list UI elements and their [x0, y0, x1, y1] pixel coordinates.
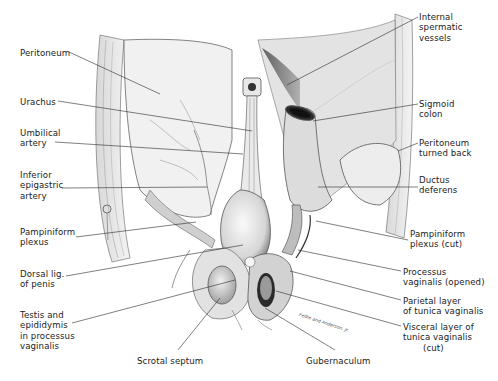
label-pampiniform-plexus-cut: Pampiniformplexus (cut): [410, 229, 465, 250]
label-visceral-layer-tunica-vaginalis: Visceral layer oftunica vaginalis(cut): [403, 322, 474, 353]
label-scrotal-septum: Scrotal septum: [137, 356, 203, 366]
label-dorsal-lig-of-penis: Dorsal lig.of penis: [20, 269, 64, 290]
spermatic-cord-right: [282, 205, 310, 258]
label-parietal-layer-tunica-vaginalis: Parietal layerof tunica vaginalis: [403, 296, 483, 317]
label-sigmoid-colon: Sigmoidcolon: [419, 99, 454, 120]
label-inferior-epigastric-artery: Inferiorepigastricartery: [20, 170, 63, 201]
label-ductus-deferens: Ductusdeferens: [419, 175, 457, 196]
label-testis-and-epididymis: Testis andepididymisin processusvaginali…: [20, 310, 75, 352]
label-gubernaculum: Gubernaculum: [306, 356, 371, 366]
label-urachus: Urachus: [20, 97, 56, 107]
label-pampiniform-plexus: Pampiniformplexus: [20, 227, 75, 248]
label-internal-spermatic-vessels: Internalspermaticvessels: [419, 12, 463, 43]
label-peritoneum-turned-back: Peritoneumturned back: [419, 138, 472, 159]
peritoneum-left-flap: [124, 39, 232, 217]
label-processus-vaginalis-opened: Processusvaginalis (opened): [403, 267, 485, 288]
peritoneum-turned-back: [340, 143, 401, 205]
label-umbilical-artery: Umbilicalartery: [20, 128, 61, 149]
label-peritoneum: Peritoneum: [20, 48, 70, 58]
